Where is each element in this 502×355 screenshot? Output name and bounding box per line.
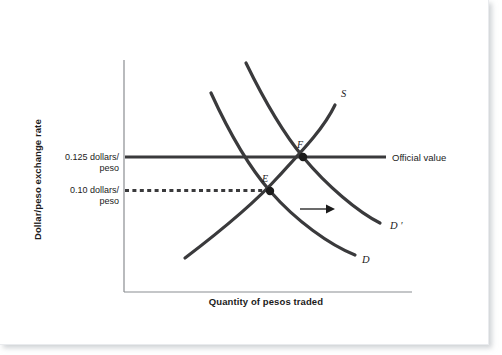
- point-label-f: F: [296, 139, 304, 150]
- official-value-label: Official value: [392, 152, 446, 163]
- y-tick-label-official: 0.125 dollars/ peso: [65, 152, 120, 173]
- demand-curve-d: [211, 93, 355, 255]
- exchange-rate-chart: Dollar/peso exchange rate Quantity of pe…: [0, 0, 502, 355]
- curve-label-d: D: [361, 254, 370, 265]
- y-axis-title: Dollar/peso exchange rate: [32, 119, 43, 240]
- figure-root: Dollar/peso exchange rate Quantity of pe…: [0, 0, 502, 355]
- y-tick-label-market: 0.10 dollars/ peso: [70, 185, 120, 206]
- y-tick-official-line2: peso: [99, 163, 119, 173]
- supply-curve-s: [185, 105, 335, 258]
- x-axis-title: Quantity of pesos traded: [209, 296, 323, 307]
- point-label-e: E: [261, 173, 268, 184]
- curve-label-s: S: [341, 88, 347, 99]
- curve-label-d-prime: D ′: [389, 220, 403, 231]
- demand-curve-d-prime: [246, 63, 380, 223]
- equilibrium-point-e: [266, 187, 274, 195]
- equilibrium-point-f: [299, 153, 307, 161]
- y-tick-market-line1: 0.10 dollars/: [70, 185, 120, 195]
- y-tick-official-line1: 0.125 dollars/: [65, 152, 120, 162]
- demand-shift-arrow: [300, 205, 335, 214]
- y-tick-market-line2: peso: [99, 196, 119, 206]
